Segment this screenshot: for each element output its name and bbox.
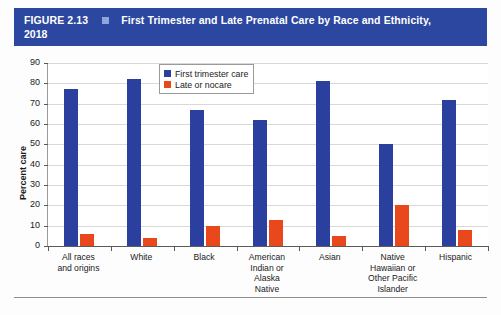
bar-late-or-nocare [458, 230, 472, 246]
y-axis-tick-mark [44, 83, 48, 84]
bar-late-or-nocare [269, 220, 283, 246]
bar-late-or-nocare [395, 205, 409, 246]
x-axis-category-label: Black [173, 252, 236, 263]
x-axis-tick-mark [111, 246, 112, 251]
y-axis-tick-mark [44, 104, 48, 105]
gridline [48, 83, 488, 84]
y-axis-tick-label: 20 [16, 199, 40, 209]
bar-first-trimester-care [316, 81, 330, 246]
legend-item-first-trimester-care: First trimester care [164, 68, 248, 79]
square-bullet-icon [102, 17, 109, 24]
y-axis-tick-mark [44, 165, 48, 166]
x-axis-category-label: White [110, 252, 173, 263]
x-axis-tick-mark [362, 246, 363, 251]
footer-divider [14, 297, 487, 298]
x-axis-tick-mark [488, 246, 489, 251]
y-axis-tick-label: 0 [16, 240, 40, 250]
y-axis-tick-label: 90 [16, 57, 40, 67]
x-axis-category-label: All racesand origins [47, 252, 110, 273]
x-axis-tick-mark [299, 246, 300, 251]
chart-legend: First trimester care Late or nocare [159, 64, 254, 94]
y-axis-tick-label: 30 [16, 179, 40, 189]
y-axis-tick-label: 40 [16, 159, 40, 169]
y-axis-tick-mark [44, 144, 48, 145]
gridline [48, 185, 488, 186]
y-axis-tick-label: 60 [16, 118, 40, 128]
figure-header-line-1: FIGURE 2.13 First Trimester and Late Pre… [24, 13, 477, 27]
legend-item-late-or-nocare: Late or nocare [164, 79, 248, 90]
figure-container: FIGURE 2.13 First Trimester and Late Pre… [0, 0, 501, 315]
x-axis-category-label: NativeHawaiian orOther PacificIslander [361, 252, 424, 294]
bar-late-or-nocare [143, 238, 157, 246]
y-axis-tick-mark [44, 226, 48, 227]
gridline [48, 205, 488, 206]
chart-region: Percent care First trimester care Late o… [0, 50, 501, 300]
legend-swatch-icon-first-trimester-care [164, 70, 171, 77]
figure-header-band: FIGURE 2.13 First Trimester and Late Pre… [14, 8, 487, 46]
x-axis-tick-mark [237, 246, 238, 251]
figure-number: FIGURE 2.13 [24, 13, 88, 27]
x-axis-tick-mark [425, 246, 426, 251]
y-axis-tick-label: 50 [16, 138, 40, 148]
figure-title-line-1: First Trimester and Late Prenatal Care b… [121, 13, 431, 27]
x-axis-category-label: Asian [298, 252, 361, 263]
x-axis-category-label: Hispanic [424, 252, 487, 263]
gridline [48, 226, 488, 227]
gridline [48, 124, 488, 125]
y-axis-tick-label: 70 [16, 98, 40, 108]
y-axis-tick-mark [44, 205, 48, 206]
x-axis-category-label: AmericanIndian orAlaskaNative [236, 252, 299, 294]
y-axis-tick-label: 80 [16, 77, 40, 87]
bar-late-or-nocare [80, 234, 94, 246]
x-axis-tick-mark [48, 246, 49, 251]
legend-label-late-or-nocare: Late or nocare [175, 80, 232, 90]
gridline [48, 63, 488, 64]
plot-area [47, 63, 488, 247]
bar-late-or-nocare [332, 236, 346, 246]
x-axis-tick-mark [174, 246, 175, 251]
bar-first-trimester-care [379, 144, 393, 246]
gridline [48, 144, 488, 145]
bar-first-trimester-care [127, 79, 141, 246]
gridline [48, 104, 488, 105]
y-axis-tick-mark [44, 185, 48, 186]
bar-first-trimester-care [190, 110, 204, 246]
bar-first-trimester-care [253, 120, 267, 246]
y-axis-tick-label: 10 [16, 220, 40, 230]
bar-late-or-nocare [206, 226, 220, 246]
y-axis-tick-mark [44, 124, 48, 125]
legend-swatch-icon-late-or-nocare [164, 81, 171, 88]
y-axis-tick-mark [44, 63, 48, 64]
bar-first-trimester-care [442, 100, 456, 246]
gridline [48, 165, 488, 166]
legend-label-first-trimester-care: First trimester care [175, 69, 248, 79]
bar-first-trimester-care [64, 89, 78, 246]
figure-title-line-2: 2018 [24, 27, 477, 42]
